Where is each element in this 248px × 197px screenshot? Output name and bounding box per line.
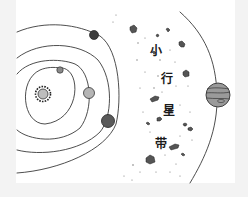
- jupiter-icon: [206, 83, 230, 107]
- label-char-dai: 带: [154, 138, 168, 150]
- orbit-mars: [17, 25, 119, 173]
- venus-icon: [84, 88, 95, 99]
- mercury-icon: [57, 67, 63, 73]
- sun-icon: [36, 87, 51, 102]
- asteroid-icon: [169, 144, 179, 150]
- earth-icon: [102, 115, 115, 128]
- asteroid-icon: [146, 122, 150, 125]
- mars-icon: [90, 31, 99, 40]
- orbit-earth: [17, 45, 110, 152]
- asteroid-icon: [183, 123, 187, 126]
- asteroid-icon: [130, 25, 137, 33]
- asteroid-icon: [157, 117, 162, 121]
- solar-system-diagram: 小 行 星 带: [0, 0, 248, 197]
- asteroid-icon: [181, 153, 185, 156]
- asteroid-icon: [179, 41, 185, 47]
- asteroid-icon: [166, 28, 170, 32]
- asteroid-icon: [156, 34, 159, 37]
- label-char-xiao: 小: [149, 45, 163, 57]
- label-char-xing2: 星: [162, 105, 176, 117]
- diagram-canvas: [0, 0, 248, 197]
- asteroid-icon: [150, 96, 159, 102]
- orbit-mercury: [25, 67, 75, 124]
- asteroid-icon: [146, 155, 155, 164]
- label-char-xing: 行: [160, 73, 174, 85]
- orbit-venus: [17, 60, 89, 139]
- asteroid-icon: [183, 70, 189, 77]
- asteroid-icon: [188, 127, 193, 131]
